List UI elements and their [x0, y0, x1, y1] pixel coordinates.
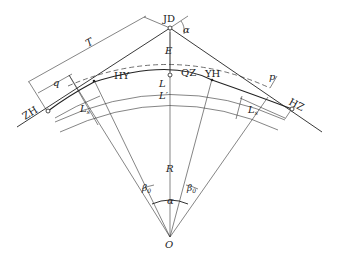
r-label: R	[165, 163, 174, 174]
radius-left-outer	[69, 75, 170, 237]
hy-point	[93, 80, 96, 83]
zh-point	[46, 109, 50, 113]
p-dimension: p	[269, 71, 277, 88]
p-label: p	[269, 71, 276, 82]
qz-label: QZ	[181, 67, 196, 78]
l-prime-dimension-arc	[60, 105, 278, 132]
l-label: L	[158, 78, 166, 89]
tangent-length-dimension: T	[28, 16, 170, 111]
radius-right-outer	[170, 97, 268, 237]
ls-right-label: Ls	[247, 104, 258, 116]
zh-label: ZH	[20, 104, 39, 122]
jd-label: JD	[162, 13, 175, 24]
t-label: T	[84, 35, 96, 48]
q-label: q	[53, 77, 59, 88]
alpha-center-label: α	[167, 195, 174, 206]
q-dimension: q	[38, 74, 98, 125]
transition-curve-diagram: T q p JD α E Q	[0, 0, 349, 260]
hz-ext	[285, 110, 291, 119]
hy-label: HY	[114, 70, 130, 81]
alpha-jd-label: α	[183, 24, 190, 35]
l-prime-label: L′	[158, 90, 169, 101]
ls-right-arc	[240, 98, 285, 118]
beta0-left-label: β0	[141, 183, 151, 194]
jd-point	[168, 26, 172, 30]
radius-to-hy	[94, 80, 170, 237]
beta0-right-label: β0	[186, 183, 196, 194]
o-label: O	[165, 239, 173, 250]
ls-left-label: Ls	[79, 103, 90, 115]
yh-label: YH	[204, 68, 221, 79]
yh-point	[211, 79, 214, 82]
right-tangent-line	[170, 28, 322, 132]
e-label: E	[164, 45, 173, 56]
qz-point	[168, 73, 172, 77]
left-tangent-line	[17, 28, 170, 127]
radius-to-yh	[170, 79, 212, 237]
